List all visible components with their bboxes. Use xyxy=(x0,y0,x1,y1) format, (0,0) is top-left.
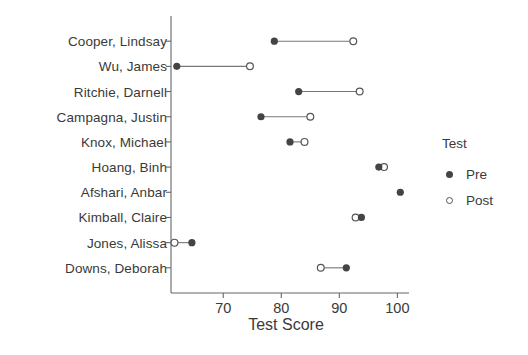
legend: Test Pre Post xyxy=(440,136,524,215)
data-point-pre xyxy=(286,138,293,145)
legend-item-post: Post xyxy=(440,189,524,211)
legend-title: Test xyxy=(442,136,524,151)
test-score-dumbbell-chart: Cooper, LindsayWu, JamesRitchie, Darnell… xyxy=(0,0,528,355)
open-circle-icon xyxy=(440,197,458,204)
data-point-post xyxy=(317,264,324,271)
data-point-pre xyxy=(358,214,365,221)
x-tick-label: 90 xyxy=(331,300,347,316)
data-point-pre xyxy=(173,63,180,70)
data-point-post xyxy=(307,113,314,120)
legend-item-pre: Pre xyxy=(440,163,524,185)
filled-circle-icon xyxy=(440,171,458,178)
x-tick-label: 100 xyxy=(385,300,409,316)
data-point-post xyxy=(350,38,357,45)
x-tick-label: 70 xyxy=(215,300,231,316)
data-point-pre xyxy=(188,239,195,246)
x-axis-title: Test Score xyxy=(171,316,401,334)
data-point-pre xyxy=(397,189,404,196)
x-tick-label: 80 xyxy=(273,300,289,316)
data-point-pre xyxy=(295,88,302,95)
data-point-pre xyxy=(271,38,278,45)
data-point-pre xyxy=(257,113,264,120)
data-point-post xyxy=(171,239,178,246)
data-point-post xyxy=(247,63,254,70)
data-point-pre xyxy=(343,264,350,271)
data-point-post xyxy=(301,139,308,146)
data-point-pre xyxy=(375,163,382,170)
legend-label-post: Post xyxy=(466,193,493,208)
data-point-post xyxy=(356,88,363,95)
legend-label-pre: Pre xyxy=(466,167,487,182)
